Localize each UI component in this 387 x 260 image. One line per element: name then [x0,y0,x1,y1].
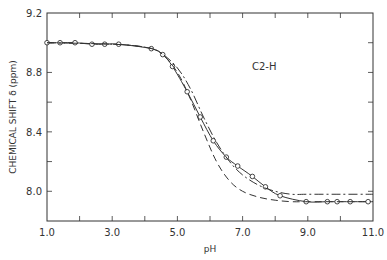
data-point-circle [90,42,95,47]
y-tick-label: 8.4 [26,127,42,138]
y-axis-title: CHEMICAL SHIFT δ (ppm) [8,60,18,174]
x-tick-labels: 1.03.05.07.09.011.0 [39,227,384,238]
chemical-shift-chart: 1.03.05.07.09.011.0 9.28.88.48.0 pH CHEM… [0,0,387,260]
x-tick-label: 11.0 [362,227,384,238]
data-series [45,40,373,204]
x-tick-label: 5.0 [169,227,185,238]
data-point-circle [235,164,240,169]
series-fit-dash-dot [47,43,373,195]
series-fit-dashed [47,43,373,202]
data-point-circle [185,89,190,94]
x-tick-label: 9.0 [300,227,316,238]
data-point-circle [366,199,371,204]
y-tick-label: 8.8 [26,67,42,78]
curve-annotation: C2-H [252,61,276,72]
y-tick-label: 9.2 [26,8,42,19]
x-tick-label: 3.0 [104,227,120,238]
data-point-circle [211,138,216,143]
data-point-circle [250,174,255,179]
y-tick-labels: 9.28.88.48.0 [26,8,42,197]
series-observed [47,43,368,203]
y-tick-label: 8.0 [26,186,42,197]
x-tick-label: 7.0 [235,227,251,238]
data-point-circle [278,193,283,198]
x-axis-title: pH [204,244,216,254]
x-tick-label: 1.0 [39,227,55,238]
